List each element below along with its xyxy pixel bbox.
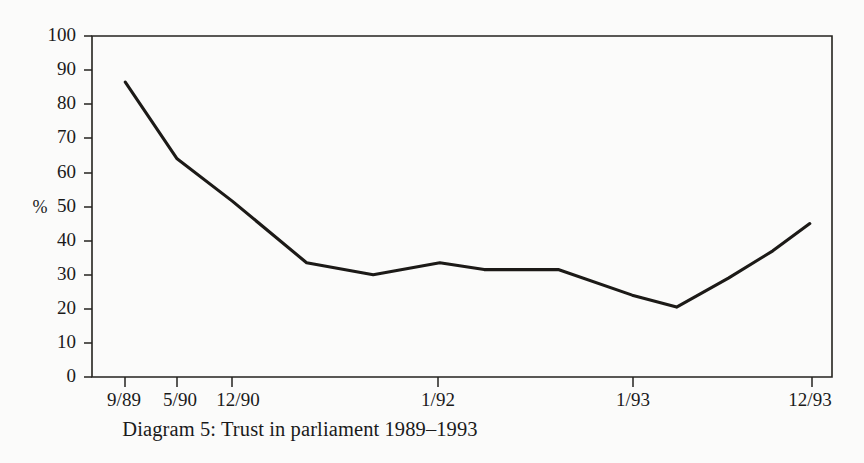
x-label-12-93: 12/93 xyxy=(788,389,831,410)
data-series-line xyxy=(125,82,810,307)
x-tick-marks xyxy=(125,377,812,387)
y-label-100: 100 xyxy=(48,24,77,45)
y-label-60: 60 xyxy=(57,161,76,182)
x-label-5-90: 5/90 xyxy=(163,389,197,410)
y-label-0: 0 xyxy=(67,365,77,386)
y-axis-title: % xyxy=(33,197,48,217)
y-label-10: 10 xyxy=(57,331,76,352)
y-label-20: 20 xyxy=(57,297,76,318)
figure-container: 100 90 80 70 60 50 40 30 20 10 0 % 9/89 … xyxy=(0,0,864,463)
figure-caption-text: Diagram 5: Trust in parliament 1989–1993 xyxy=(122,418,477,441)
y-label-30: 30 xyxy=(57,263,76,284)
y-label-70: 70 xyxy=(57,126,76,147)
figure-caption: Diagram 5: Trust in parliament 1989–1993 xyxy=(0,418,864,441)
x-label-1-93: 1/93 xyxy=(616,389,650,410)
x-label-9-89: 9/89 xyxy=(107,389,141,410)
x-label-12-90: 12/90 xyxy=(216,389,259,410)
y-label-40: 40 xyxy=(57,229,76,250)
plot-frame xyxy=(92,36,832,377)
y-tick-labels: 100 90 80 70 60 50 40 30 20 10 0 xyxy=(48,24,77,386)
y-label-80: 80 xyxy=(57,92,76,113)
y-label-50: 50 xyxy=(57,195,76,216)
axis-frame-rect xyxy=(92,36,832,377)
y-tick-marks xyxy=(84,36,92,377)
x-tick-labels: 9/89 5/90 12/90 1/92 1/93 12/93 xyxy=(107,389,832,410)
y-label-90: 90 xyxy=(57,58,76,79)
x-label-1-92: 1/92 xyxy=(421,389,455,410)
line-chart: 100 90 80 70 60 50 40 30 20 10 0 % 9/89 … xyxy=(0,0,864,463)
